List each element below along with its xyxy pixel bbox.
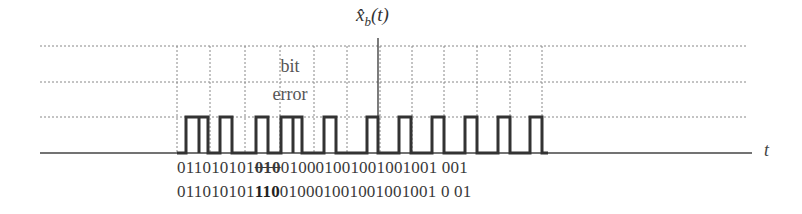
bits-before-error: 011010101 xyxy=(177,182,255,201)
erroneous-bits: 010 xyxy=(255,158,281,177)
received-bit-sequence: 011010101010010001001001001001 001 xyxy=(177,158,468,178)
pulse-waveform xyxy=(177,117,548,153)
decoded-bit-sequence: 011010101110010001001001001001 0 01 xyxy=(177,182,471,202)
bit-error-annotation-line2: error xyxy=(250,84,330,105)
bit-error-annotation-line1: bit xyxy=(250,56,330,77)
bits-after-error: 010001001001001001 001 xyxy=(281,158,468,177)
bits-before-error: 011010101 xyxy=(177,158,255,177)
bits-after-error: 010001001001001001 0 01 xyxy=(280,182,472,201)
corrected-bits: 110 xyxy=(255,182,280,201)
signal-label: x̂b(t) xyxy=(356,4,389,26)
grid-lines xyxy=(40,46,748,153)
time-axis-label: t xyxy=(764,140,769,161)
bit-error-diagram: x̂b(t) bit error t 011010101010010001001… xyxy=(0,0,802,214)
